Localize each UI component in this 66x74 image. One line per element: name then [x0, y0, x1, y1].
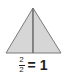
denominator: 2 — [19, 66, 23, 74]
numerator: 2 — [19, 56, 23, 64]
fraction-triangle — [0, 0, 66, 56]
fraction: 2 2 — [19, 56, 25, 74]
triangle-left-half — [6, 8, 33, 53]
fraction-caption: 2 2 = 1 — [0, 56, 66, 74]
triangle-right-half — [33, 8, 61, 53]
equals-one: = 1 — [28, 57, 48, 73]
